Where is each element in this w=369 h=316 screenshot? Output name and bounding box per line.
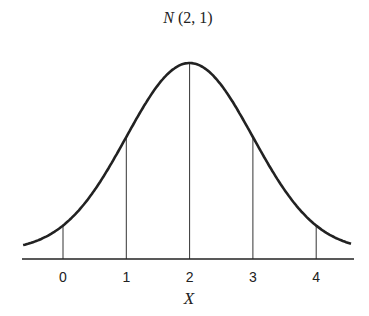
- x-axis-label: X: [183, 289, 195, 308]
- normal-distribution-chart: N (2, 1) 01234 X: [0, 0, 369, 316]
- x-tick-label: 0: [59, 269, 67, 285]
- x-tick-label: 3: [249, 269, 257, 285]
- x-tick-labels: 01234: [59, 269, 320, 285]
- ordinate-lines: [63, 63, 316, 259]
- chart-title: N (2, 1): [162, 9, 212, 27]
- x-tick-label: 4: [312, 269, 320, 285]
- x-tick-label: 1: [122, 269, 130, 285]
- density-curve: [23, 63, 351, 245]
- x-tick-label: 2: [186, 269, 194, 285]
